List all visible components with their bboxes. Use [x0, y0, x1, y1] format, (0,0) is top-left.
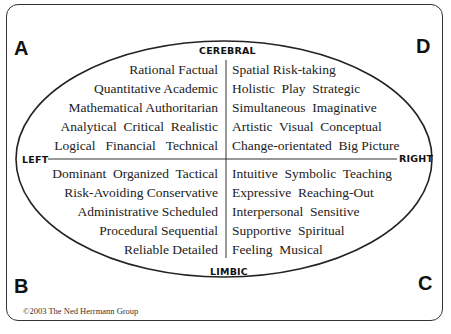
- trait-d-4: Artistic Visual Conceptual: [232, 120, 382, 134]
- trait-a-3: Mathematical Authoritarian: [68, 101, 218, 115]
- axis-label-cerebral: CEREBRAL: [199, 45, 256, 56]
- trait-d-1: Spatial Risk-taking: [232, 63, 336, 77]
- axis-label-limbic: LIMBIC: [210, 266, 248, 277]
- trait-b-2: Risk-Avoiding Conservative: [64, 186, 218, 200]
- trait-a-1: Rational Factual: [129, 63, 218, 77]
- quadrant-letter-b: B: [14, 275, 28, 298]
- quadrant-letter-d: D: [416, 35, 430, 58]
- trait-c-4: Supportive Spiritual: [232, 224, 345, 238]
- trait-c-2: Expressive Reaching-Out: [232, 186, 374, 200]
- trait-b-4: Procedural Sequential: [99, 224, 218, 238]
- trait-c-5: Feeling Musical: [232, 243, 323, 257]
- trait-d-3: Simultaneous Imaginative: [232, 101, 377, 115]
- quadrant-letter-a: A: [14, 37, 28, 60]
- trait-b-1: Dominant Organized Tactical: [52, 167, 218, 181]
- trait-a-5: Logical Financial Technical: [54, 139, 218, 153]
- trait-d-5: Change-orientated Big Picture: [232, 139, 400, 153]
- axis-label-left: LEFT: [22, 154, 48, 165]
- quadrant-letter-c: C: [418, 272, 432, 295]
- trait-d-2: Holistic Play Strategic: [232, 82, 360, 96]
- trait-b-5: Reliable Detailed: [124, 243, 218, 257]
- copyright-notice: ©2003 The Ned Herrmann Group: [23, 306, 138, 316]
- trait-a-2: Quantitative Academic: [94, 82, 218, 96]
- trait-c-3: Interpersonal Sensitive: [232, 205, 359, 219]
- trait-c-1: Intuitive Symbolic Teaching: [232, 167, 392, 181]
- trait-b-3: Administrative Scheduled: [77, 205, 218, 219]
- trait-a-4: Analytical Critical Realistic: [61, 120, 218, 134]
- axis-label-right: RIGHT: [399, 153, 433, 164]
